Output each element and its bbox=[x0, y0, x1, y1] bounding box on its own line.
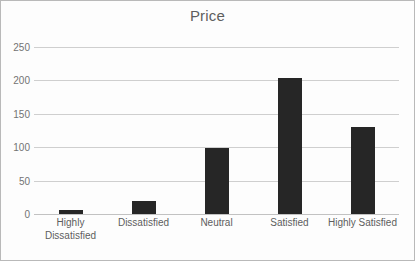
bar[interactable] bbox=[351, 127, 375, 214]
bar-slot bbox=[326, 47, 399, 214]
plot-area bbox=[34, 47, 399, 214]
y-axis: 050100150200250 bbox=[1, 47, 30, 214]
y-tick-label: 100 bbox=[1, 142, 30, 153]
bar-slot bbox=[253, 47, 326, 214]
bar[interactable] bbox=[278, 78, 302, 214]
chart-title: Price bbox=[1, 7, 414, 24]
y-tick-label: 0 bbox=[1, 209, 30, 220]
y-tick-label: 250 bbox=[1, 42, 30, 53]
y-tick-label: 200 bbox=[1, 75, 30, 86]
x-axis: Highly DissatisfiedDissatisfiedNeutralSa… bbox=[34, 217, 399, 257]
y-tick-label: 150 bbox=[1, 108, 30, 119]
bar[interactable] bbox=[132, 201, 156, 214]
chart-container: Price 050100150200250 Highly Dissatisfie… bbox=[0, 0, 415, 261]
bar-slot bbox=[180, 47, 253, 214]
bar[interactable] bbox=[59, 210, 83, 214]
bar[interactable] bbox=[205, 148, 229, 214]
x-tick-label: Dissatisfied bbox=[107, 217, 180, 230]
bar-slot bbox=[34, 47, 107, 214]
x-tick-label: Highly Dissatisfied bbox=[34, 217, 107, 242]
bar-slot bbox=[107, 47, 180, 214]
x-tick-label: Highly Satisfied bbox=[326, 217, 399, 230]
x-tick-label: Neutral bbox=[180, 217, 253, 230]
y-tick-label: 50 bbox=[1, 175, 30, 186]
x-tick-label: Satisfied bbox=[253, 217, 326, 230]
gridline bbox=[34, 214, 399, 215]
